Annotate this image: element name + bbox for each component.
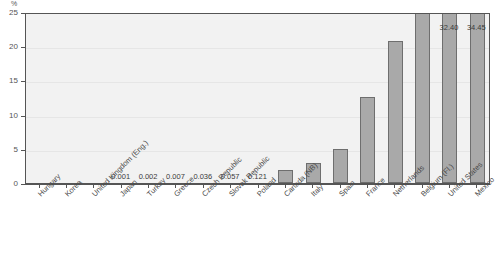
bar [333, 149, 348, 183]
y-tick-label-25: 25 [9, 9, 18, 17]
bar [442, 13, 457, 183]
y-tick-label-5: 5 [14, 146, 18, 154]
bar [360, 97, 375, 183]
y-tick-label-10: 10 [9, 112, 18, 120]
y-tick-label-0: 0 [14, 180, 18, 188]
bar [470, 13, 485, 183]
plot-area [25, 13, 490, 184]
bar-chart: % 0510152025 HungaryKoreaUnited Kingdom … [0, 0, 497, 255]
y-tick-label-20: 20 [9, 43, 18, 51]
bar [415, 13, 430, 183]
bar [388, 41, 403, 183]
y-axis: 0510152025 [0, 0, 25, 200]
y-tick-label-15: 15 [9, 77, 18, 85]
bar-value-label: 0.121 [241, 172, 275, 181]
bar-value-label: 34.45 [459, 23, 493, 32]
